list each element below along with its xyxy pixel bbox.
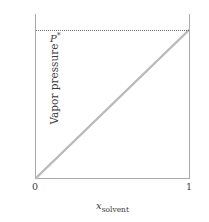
y-axis-label: Vapor pressure — [48, 19, 60, 149]
x-axis-label: xsolvent — [35, 200, 190, 214]
vapor-pressure-chart: P* Vapor pressure xsolvent 0 1 — [0, 0, 209, 222]
x-tick-label-1: 1 — [186, 181, 192, 192]
plot-area: P* Vapor pressure xsolvent 0 1 — [35, 14, 190, 179]
x-tick-label-0: 0 — [32, 181, 38, 192]
x-axis-label-subscript: solvent — [102, 205, 129, 214]
